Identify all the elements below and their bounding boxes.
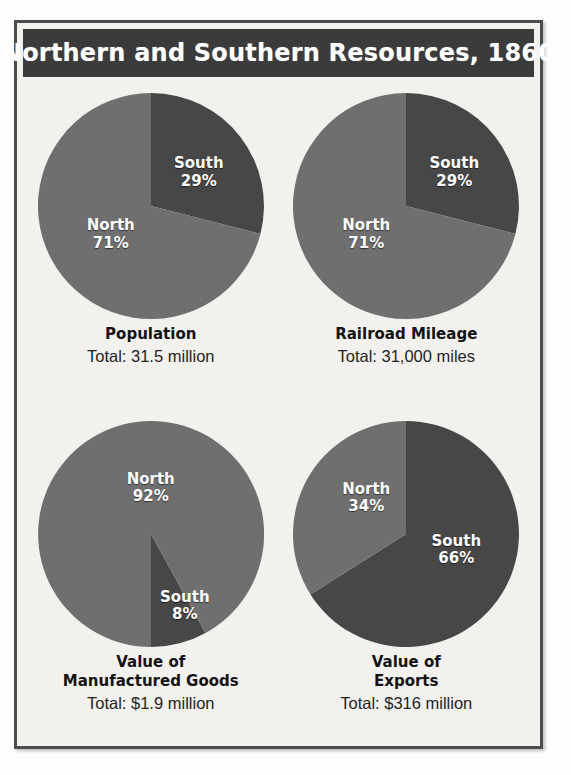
pie-exports: North 34% South 66% [293, 421, 519, 647]
caption-manufactured-goods: Value of Manufactured Goods Total: $1.9 … [63, 653, 239, 715]
caption-title-line1: Value of [340, 653, 472, 673]
caption-total: Total: $1.9 million [63, 693, 239, 714]
pie-population: South 29% North 71% [38, 93, 264, 319]
caption-railroad-mileage: Railroad Mileage Total: 31,000 miles [335, 325, 477, 367]
pie-railroad-mileage-svg [293, 93, 519, 319]
poster-page: Northern and Southern Resources, 1860 S [0, 0, 571, 775]
chart-exports: North 34% South 66% Value of Exports Tot… [279, 413, 535, 741]
chart-manufactured-goods: North 92% South 8% Value of Manufactured… [23, 413, 279, 741]
page-title: Northern and Southern Resources, 1860 [2, 39, 555, 67]
pie-population-svg [38, 93, 264, 319]
chart-population: South 29% North 71% Population Total: 31… [23, 85, 279, 413]
chart-railroad-mileage: South 29% North 71% Railroad Mileage Tot… [279, 85, 535, 413]
caption-total: Total: 31.5 million [87, 346, 214, 367]
caption-title-line1: Value of [63, 653, 239, 673]
caption-exports: Value of Exports Total: $316 million [340, 653, 472, 715]
pie-manufactured-goods: North 92% South 8% [38, 421, 264, 647]
caption-title-line2: Exports [340, 672, 472, 692]
poster-title-bar: Northern and Southern Resources, 1860 [23, 29, 534, 77]
caption-title: Railroad Mileage [335, 325, 477, 345]
pie-manufactured-goods-svg [38, 421, 264, 647]
caption-title: Population [87, 325, 214, 345]
charts-area: South 29% North 71% Population Total: 31… [23, 85, 534, 740]
caption-population: Population Total: 31.5 million [87, 325, 214, 367]
chart-grid: South 29% North 71% Population Total: 31… [23, 85, 534, 740]
caption-total: Total: 31,000 miles [335, 346, 477, 367]
caption-title-line2: Manufactured Goods [63, 672, 239, 692]
poster-frame: Northern and Southern Resources, 1860 S [14, 20, 543, 749]
pie-railroad-mileage: South 29% North 71% [293, 93, 519, 319]
caption-total: Total: $316 million [340, 693, 472, 714]
pie-exports-svg [293, 421, 519, 647]
